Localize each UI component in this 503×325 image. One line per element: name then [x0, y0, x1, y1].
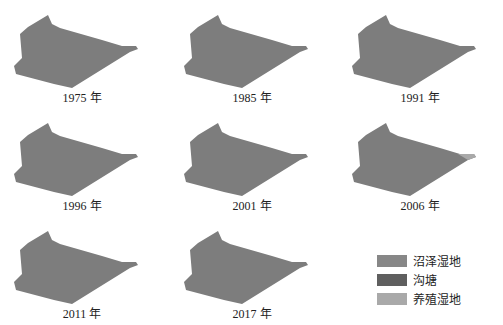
legend-label: 沟塘 — [413, 271, 437, 289]
wetland-map-shape — [340, 0, 500, 90]
year-caption: 2006 年 — [340, 196, 500, 214]
aquaculture-swatch-icon — [377, 293, 407, 305]
legend-item-marsh: 沼泽湿地 — [377, 252, 461, 269]
legend-item-pond: 沟塘 — [377, 271, 461, 288]
wetland-map-shape — [340, 108, 500, 198]
wetland-map-shape — [172, 0, 332, 90]
pond-swatch-icon — [377, 274, 407, 286]
year-caption: 2011 年 — [2, 304, 162, 322]
map-panel-1996: 1996 年 — [2, 108, 162, 216]
year-caption: 2017 年 — [172, 304, 332, 322]
map-panel-2011: 2011 年 — [2, 216, 162, 324]
map-panel-1985: 1985 年 — [172, 0, 332, 108]
year-caption: 1985 年 — [172, 88, 332, 106]
marsh-swatch-icon — [377, 255, 407, 267]
year-caption: 1996 年 — [2, 196, 162, 214]
map-panel-1991: 1991 年 — [340, 0, 500, 108]
year-caption: 2001 年 — [172, 196, 332, 214]
wetland-map-shape — [172, 216, 332, 306]
wetland-map-shape — [172, 108, 332, 198]
wetland-map-shape — [2, 108, 162, 198]
map-panel-2017: 2017 年 — [172, 216, 332, 324]
legend-label: 沼泽湿地 — [413, 252, 461, 270]
legend-label: 养殖湿地 — [413, 290, 461, 308]
map-panel-2001: 2001 年 — [172, 108, 332, 216]
year-caption: 1975 年 — [2, 88, 162, 106]
legend-item-aquaculture: 养殖湿地 — [377, 290, 461, 307]
year-caption: 1991 年 — [340, 88, 500, 106]
map-panel-2006: 2006 年 — [340, 108, 500, 216]
legend: 沼泽湿地 沟塘 养殖湿地 — [377, 252, 461, 309]
wetland-map-shape — [2, 216, 162, 306]
wetland-map-shape — [2, 0, 162, 90]
map-panel-1975: 1975 年 — [2, 0, 162, 108]
